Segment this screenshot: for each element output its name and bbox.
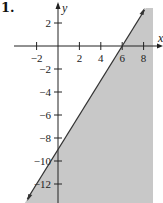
- y-axis-arrow-icon: [56, 2, 61, 9]
- shaded-region: [25, 8, 153, 203]
- y-axis-label: y: [61, 1, 68, 15]
- x-tick-label: 4: [98, 52, 104, 64]
- y-tick-label: −6: [39, 109, 51, 121]
- x-axis-label: x: [157, 31, 163, 45]
- x-tick-label: 6: [119, 52, 125, 64]
- x-tick-label: 2: [77, 52, 83, 64]
- y-tick-label: 2: [46, 17, 52, 29]
- y-tick-label: −8: [39, 132, 51, 144]
- y-tick-label: −2: [39, 63, 51, 75]
- inequality-graph: −224682−2−4−6−8−10−12yx: [0, 0, 163, 203]
- y-tick-label: −4: [39, 86, 51, 98]
- x-tick-label: 8: [141, 52, 147, 64]
